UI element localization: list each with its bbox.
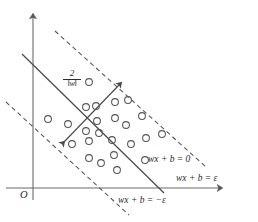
lower-margin-equation-label: wx + b = −ε	[118, 196, 166, 206]
data-point	[139, 113, 146, 120]
data-point	[143, 135, 150, 142]
svm-margin-diagram: 2 ‖w‖ wx + b = 0 wx + b = ε wx + b = −ε …	[0, 0, 258, 222]
diagram-canvas	[0, 0, 258, 222]
upper-margin-line	[55, 31, 206, 167]
data-point	[98, 160, 105, 167]
data-point	[83, 104, 90, 111]
data-point	[86, 155, 93, 162]
data-point	[125, 97, 132, 104]
data-point	[128, 141, 135, 148]
margin-width-label: 2 ‖w‖	[61, 69, 83, 88]
data-point	[114, 167, 121, 174]
data-point	[159, 131, 166, 138]
data-point	[94, 118, 101, 125]
decision-hyperplane-line	[22, 54, 164, 193]
data-point	[111, 152, 118, 159]
data-point	[112, 115, 119, 122]
data-point	[123, 122, 130, 129]
margin-boundaries-group	[6, 31, 206, 215]
data-point	[65, 121, 72, 128]
margin-width-arrow	[63, 84, 120, 143]
data-point	[112, 99, 119, 106]
upper-margin-equation-label: wx + b = ε	[176, 174, 217, 184]
margin-numerator: 2	[61, 69, 83, 79]
hyperplane-equation-label: wx + b = 0	[148, 155, 190, 165]
origin-label: O	[20, 190, 28, 201]
data-point	[83, 128, 90, 135]
data-point	[45, 116, 52, 123]
data-point	[86, 138, 93, 145]
data-point	[69, 141, 76, 148]
data-point	[86, 79, 93, 86]
data-point	[96, 130, 103, 137]
margin-denominator: ‖w‖	[61, 80, 83, 89]
